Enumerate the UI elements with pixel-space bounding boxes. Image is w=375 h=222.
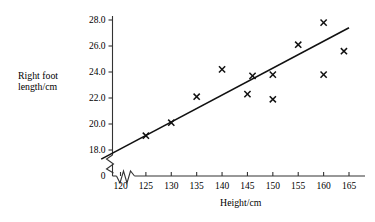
data-point-marker (244, 91, 250, 97)
y-axis-tick-label: 24.0 (89, 67, 106, 77)
data-point-marker (321, 20, 327, 26)
x-axis-tick-label: 150 (266, 181, 281, 191)
x-axis-tick-label: 145 (240, 181, 255, 191)
data-point-marker (295, 42, 301, 48)
x-axis-tick-label: 140 (215, 181, 230, 191)
data-point-marker (219, 66, 225, 72)
line-of-best-fit (101, 28, 349, 159)
y-axis-tick-label: 20.0 (89, 119, 106, 129)
x-axis-tick-label: 120 (113, 181, 128, 191)
y-axis-tick-label: 28.0 (89, 15, 106, 25)
x-axis-tick-label: 155 (291, 181, 306, 191)
y-axis-title-line1: Right foot (18, 70, 58, 81)
data-point-marker (270, 96, 276, 102)
data-point-marker (194, 94, 200, 100)
data-point-marker (270, 72, 276, 78)
y-axis-title-line2: length/cm (18, 81, 58, 92)
chart-figure: 18.020.022.024.026.028.00120125130135140… (0, 0, 375, 222)
scatter-plot-svg: 18.020.022.024.026.028.00120125130135140… (0, 0, 375, 222)
x-axis-title: Height/cm (220, 197, 262, 208)
y-axis-tick-label: 26.0 (89, 41, 106, 51)
x-axis-tick-label: 165 (342, 181, 357, 191)
y-axis-tick-label: 18.0 (89, 145, 106, 155)
y-axis-origin-label: 0 (101, 171, 106, 181)
x-axis-tick-label: 125 (139, 181, 154, 191)
data-point-marker (341, 48, 347, 54)
y-axis-tick-label: 22.0 (89, 93, 106, 103)
x-axis-tick-label: 160 (316, 181, 331, 191)
data-point-marker (321, 72, 327, 78)
x-axis-tick-label: 135 (190, 181, 205, 191)
x-axis-tick-label: 130 (164, 181, 179, 191)
